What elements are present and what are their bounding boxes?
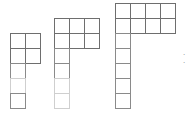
column-cell (55, 64, 70, 79)
pattern-diagram (0, 0, 191, 115)
column-cell (11, 64, 26, 79)
column-cell (11, 79, 26, 94)
grid-cell (70, 34, 85, 49)
grid-cell (11, 34, 26, 49)
column-cell (116, 64, 131, 79)
column-cell (55, 79, 70, 94)
grid-cell (85, 34, 100, 49)
column-cell (116, 94, 131, 109)
grid-cell (116, 19, 131, 34)
column-cell (116, 34, 131, 49)
grid-cell (131, 4, 146, 19)
column-cell (116, 49, 131, 64)
continuation-dots: · · (183, 51, 191, 67)
grid-cell (116, 4, 131, 19)
grid-cell (161, 4, 176, 19)
grid-cell (146, 4, 161, 19)
column-cell (11, 94, 26, 109)
grid-cell (131, 19, 146, 34)
grid-cell (85, 19, 100, 34)
grid-cell (70, 19, 85, 34)
grid-cell (26, 34, 41, 49)
grid-cell (161, 19, 176, 34)
column-cell (55, 94, 70, 109)
grid-cell (55, 34, 70, 49)
grid-cell (146, 19, 161, 34)
grid-cell (11, 49, 26, 64)
column-cell (116, 79, 131, 94)
grid-cell (55, 19, 70, 34)
column-cell (55, 49, 70, 64)
grid-cell (26, 49, 41, 64)
